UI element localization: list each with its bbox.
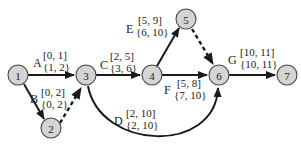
activity-b-ls-lf: {0, 2} xyxy=(41,98,68,110)
node-5: 5 xyxy=(176,9,196,29)
activity-d-ls-lf: {2, 10} xyxy=(126,119,159,131)
activity-c-es-ef: [2, 5] xyxy=(110,50,134,62)
activity-e-name: E xyxy=(126,22,133,36)
activity-e-es-ef: [5, 9] xyxy=(138,14,162,26)
activity-a-ls-lf: {1, 2} xyxy=(43,61,70,73)
activity-d-name: D xyxy=(114,114,123,128)
activity-g-es-ef: [10, 11] xyxy=(240,46,274,58)
activity-f-es-ef: [5, 8] xyxy=(177,77,201,89)
node-5-label: 5 xyxy=(183,14,189,26)
activity-c-name: C xyxy=(100,58,108,72)
activity-c-ls-lf: {3, 6} xyxy=(110,62,137,74)
activity-a-name: A xyxy=(33,56,42,70)
activity-e-ls-lf: {6, 10} xyxy=(136,26,169,38)
node-4: 4 xyxy=(142,65,162,85)
node-6-label: 6 xyxy=(216,70,222,82)
node-7: 7 xyxy=(277,65,297,85)
activity-d-es-ef: [2, 10] xyxy=(126,107,155,119)
node-2-label: 2 xyxy=(48,123,54,135)
node-4-label: 4 xyxy=(149,70,155,82)
node-2: 2 xyxy=(41,118,61,138)
activity-g-ls-lf: {10, 11} xyxy=(240,58,278,70)
activity-b-name: B xyxy=(30,92,38,106)
node-1-label: 1 xyxy=(15,70,21,82)
node-7-label: 7 xyxy=(284,70,290,82)
dummy-edge-5-6 xyxy=(192,29,213,64)
activity-g-name: G xyxy=(228,53,237,67)
activity-f-name: F xyxy=(164,83,171,97)
activity-a-es-ef: [0, 1] xyxy=(43,49,67,61)
node-6: 6 xyxy=(209,65,229,85)
network-diagram: A [0, 1] {1, 2} B [0, 2] {0, 2} C [2, 5]… xyxy=(0,0,301,145)
activity-f-ls-lf: {7, 10} xyxy=(174,89,207,101)
node-3: 3 xyxy=(76,65,96,85)
node-3-label: 3 xyxy=(83,70,89,82)
node-1: 1 xyxy=(8,65,28,85)
activity-b-es-ef: [0, 2] xyxy=(41,86,65,98)
